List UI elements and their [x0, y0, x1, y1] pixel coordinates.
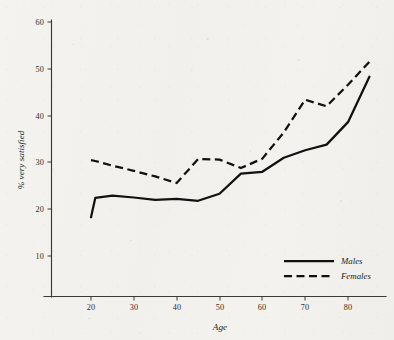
x-tick-label-40: 40 — [173, 303, 182, 312]
series-line-males — [91, 77, 369, 217]
y-tick-label-40: 40 — [35, 112, 44, 121]
chart-figure: 10 20 30 40 50 60 20 30 40 50 60 70 80 — [0, 0, 394, 340]
x-axis-ticks — [91, 297, 348, 301]
legend-label-females: Females — [340, 271, 371, 281]
y-tick-label-20: 20 — [35, 205, 44, 214]
legend-label-males: Males — [340, 256, 363, 266]
x-tick-label-80: 80 — [344, 303, 353, 312]
line-chart-plot: 10 20 30 40 50 60 20 30 40 50 60 70 80 — [0, 0, 394, 340]
x-tick-label-70: 70 — [301, 303, 310, 312]
y-axis-tick-labels: 10 20 30 40 50 60 — [35, 18, 44, 261]
y-tick-label-50: 50 — [35, 65, 44, 74]
x-axis-title: Age — [212, 322, 227, 332]
y-axis-ticks — [48, 22, 52, 256]
y-tick-label-30: 30 — [35, 158, 44, 167]
chart-legend: Males Females — [284, 256, 371, 281]
y-tick-label-10: 10 — [35, 252, 44, 261]
x-axis-tick-labels: 20 30 40 50 60 70 80 — [87, 303, 353, 312]
x-tick-label-20: 20 — [87, 303, 96, 312]
y-axis-title: % very satisfied — [16, 130, 26, 189]
x-tick-label-30: 30 — [130, 303, 139, 312]
x-tick-label-60: 60 — [258, 303, 267, 312]
series-line-females — [91, 62, 369, 183]
y-tick-label-60: 60 — [35, 18, 44, 27]
x-tick-label-50: 50 — [216, 303, 225, 312]
